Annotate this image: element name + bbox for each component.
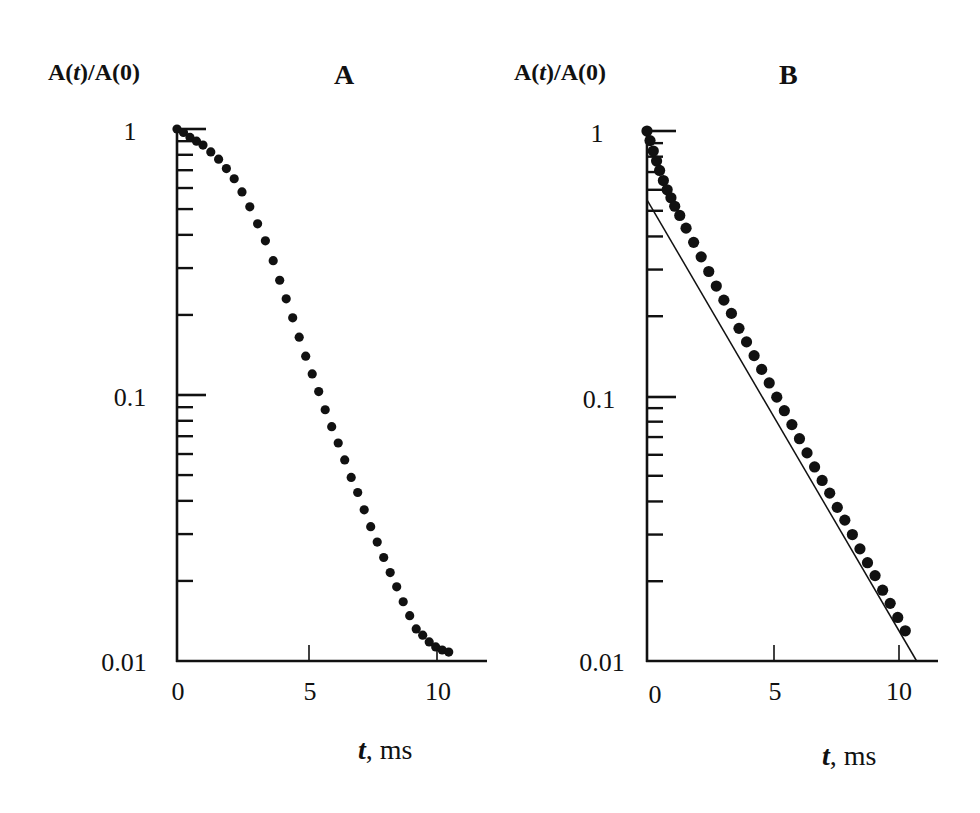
- panel-a-xlabel: t, ms: [358, 734, 412, 765]
- data-point: [711, 280, 722, 291]
- data-point: [764, 377, 775, 388]
- ylabel-prefix: A(: [48, 59, 73, 85]
- data-point: [718, 295, 729, 306]
- data-point: [321, 405, 330, 414]
- data-point: [854, 543, 865, 554]
- panel-b-title: B: [779, 59, 798, 90]
- data-point: [253, 219, 262, 228]
- data-point: [198, 140, 207, 149]
- xlabel-unit: , ms: [830, 740, 877, 771]
- panel-a-xtick-label: 5: [304, 677, 317, 706]
- panel-a-xtick-label: 10: [425, 677, 451, 706]
- data-point: [696, 251, 707, 262]
- data-point: [353, 488, 362, 497]
- data-point: [214, 155, 223, 164]
- panel-a-ylabel: A(t)/A(0): [48, 59, 140, 85]
- data-point: [688, 237, 699, 248]
- data-point: [726, 308, 737, 319]
- data-point: [749, 350, 760, 361]
- data-point: [366, 522, 375, 531]
- panel-a: A(t)/A(0) A 1 0.1 0.01 0 5 10 t, ms: [48, 59, 487, 765]
- panel-b-ylabel: A(t)/A(0): [514, 59, 606, 85]
- panel-b-xtick-label: 10: [886, 677, 912, 706]
- panel-a-ytick-label: 1: [124, 117, 137, 146]
- data-point: [733, 323, 744, 334]
- data-point: [418, 631, 427, 640]
- data-point: [869, 570, 880, 581]
- data-point: [703, 266, 714, 277]
- panel-b-xlabel: t, ms: [822, 740, 876, 771]
- data-point: [399, 597, 408, 606]
- data-point: [347, 473, 356, 482]
- data-point: [832, 502, 843, 513]
- data-point: [779, 405, 790, 416]
- data-point: [900, 625, 911, 636]
- data-point: [301, 352, 310, 361]
- data-point: [877, 585, 888, 596]
- figure: A(t)/A(0) A 1 0.1 0.01 0 5 10 t, ms A(t)…: [0, 0, 980, 813]
- panel-b-data-points: [641, 125, 911, 636]
- panel-a-axes: [176, 128, 487, 662]
- panel-a-minor-ticks: [177, 141, 193, 581]
- xlabel-unit: , ms: [366, 734, 413, 765]
- data-point: [839, 515, 850, 526]
- data-point: [334, 438, 343, 447]
- ylabel-suffix: )/A(0): [80, 59, 140, 85]
- data-point: [275, 276, 284, 285]
- data-point: [786, 419, 797, 430]
- panel-a-data-points: [172, 124, 453, 656]
- data-point: [405, 611, 414, 620]
- data-point: [288, 313, 297, 322]
- data-point: [741, 336, 752, 347]
- panel-a-ytick-label: 0.1: [114, 383, 147, 412]
- data-point: [386, 568, 395, 577]
- data-point: [817, 475, 828, 486]
- data-point: [245, 202, 254, 211]
- data-point: [222, 164, 231, 173]
- data-point: [809, 461, 820, 472]
- panel-a-ytick-label: 0.01: [101, 648, 147, 677]
- data-point: [847, 529, 858, 540]
- data-point: [862, 557, 873, 568]
- data-point: [360, 505, 369, 514]
- data-point: [379, 553, 388, 562]
- data-point: [308, 369, 317, 378]
- data-point: [295, 333, 304, 342]
- data-point: [674, 210, 685, 221]
- panel-b: A(t)/A(0) B 1 0.1 0.01 0 5 10 t, ms: [514, 59, 938, 771]
- ylabel-suffix: )/A(0): [546, 59, 606, 85]
- data-point: [340, 455, 349, 464]
- data-point: [261, 236, 270, 245]
- data-point: [824, 488, 835, 499]
- data-point: [885, 598, 896, 609]
- data-point: [230, 174, 239, 183]
- data-point: [373, 537, 382, 546]
- panel-b-axes: [646, 130, 938, 662]
- data-point: [444, 648, 453, 657]
- ylabel-prefix: A(: [514, 59, 539, 85]
- data-point: [794, 433, 805, 444]
- data-point: [314, 387, 323, 396]
- data-point: [327, 422, 336, 431]
- data-point: [892, 612, 903, 623]
- data-point: [641, 125, 652, 136]
- data-point: [756, 364, 767, 375]
- panel-b-fit-line: [647, 200, 917, 661]
- data-point: [654, 165, 665, 176]
- data-point: [648, 145, 659, 156]
- data-point: [269, 256, 278, 265]
- data-point: [771, 392, 782, 403]
- data-point: [237, 187, 246, 196]
- panel-a-title: A: [334, 59, 355, 90]
- data-point: [680, 223, 691, 234]
- panel-b-minor-ticks: [647, 143, 663, 581]
- panel-b-xtick-label: 5: [769, 677, 782, 706]
- data-point: [206, 147, 215, 156]
- data-point: [644, 135, 655, 146]
- panel-b-ytick-label: 0.01: [579, 648, 625, 677]
- data-point: [801, 447, 812, 458]
- panel-b-xtick-label: 0: [649, 680, 662, 709]
- panel-a-xtick-label: 0: [172, 677, 185, 706]
- panel-b-ytick-label: 0.1: [583, 385, 616, 414]
- panel-b-ytick-label: 1: [591, 119, 604, 148]
